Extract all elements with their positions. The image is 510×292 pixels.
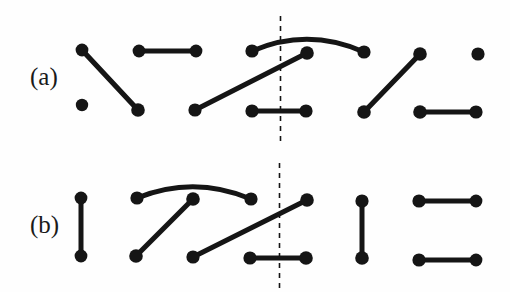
node-b-b4 bbox=[243, 251, 256, 264]
node-b-b1 bbox=[75, 250, 88, 263]
node-a-b8 bbox=[469, 105, 482, 118]
node-a-b7 bbox=[413, 105, 427, 119]
node-b-t7 bbox=[412, 194, 425, 207]
node-a-t1 bbox=[76, 44, 89, 57]
node-a-b2 bbox=[131, 103, 145, 117]
node-a-t2 bbox=[133, 45, 146, 58]
node-a-t6 bbox=[357, 45, 370, 58]
node-b-t3 bbox=[186, 192, 200, 206]
node-b-t1 bbox=[75, 192, 88, 205]
node-b-b8 bbox=[470, 254, 483, 267]
node-a-t4 bbox=[245, 44, 258, 57]
node-b-b6 bbox=[355, 251, 369, 265]
row-label-b: (b) bbox=[30, 212, 59, 237]
a-edge-6 bbox=[364, 54, 420, 112]
node-b-b3 bbox=[186, 250, 199, 263]
row-a bbox=[76, 16, 485, 143]
node-a-t3 bbox=[190, 45, 203, 58]
node-b-t2 bbox=[130, 191, 143, 204]
node-a-b5 bbox=[299, 104, 312, 117]
node-a-t7 bbox=[413, 47, 427, 61]
a-edge-1 bbox=[82, 50, 138, 110]
node-a-b1 bbox=[76, 99, 88, 111]
node-b-b7 bbox=[412, 253, 425, 266]
figure-canvas: (a) (b) bbox=[0, 0, 510, 292]
node-b-b2 bbox=[129, 249, 143, 263]
b-edge-3 bbox=[136, 199, 193, 256]
b-edge-4 bbox=[193, 200, 307, 257]
node-a-b3 bbox=[188, 103, 201, 116]
node-b-t8 bbox=[470, 195, 483, 208]
node-b-t5 bbox=[300, 193, 314, 207]
diagram-svg bbox=[0, 0, 510, 292]
node-a-b4 bbox=[245, 104, 258, 117]
node-a-b6 bbox=[357, 105, 371, 119]
node-a-t5 bbox=[300, 46, 314, 60]
row-label-a: (a) bbox=[30, 64, 58, 89]
node-a-t8 bbox=[471, 47, 484, 60]
node-b-t6 bbox=[355, 194, 368, 207]
node-b-b5 bbox=[299, 251, 313, 265]
row-b bbox=[75, 163, 483, 290]
diagram-groups bbox=[75, 16, 485, 290]
node-b-t4 bbox=[244, 192, 257, 205]
a-edge-3 bbox=[195, 53, 307, 110]
